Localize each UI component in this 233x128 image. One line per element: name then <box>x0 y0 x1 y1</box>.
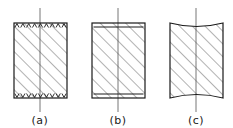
caption-a: (a) <box>32 114 49 127</box>
specimen-b-hatch-fill <box>92 23 145 98</box>
caption-c: (c) <box>188 114 204 127</box>
panel-a: (a) <box>14 8 67 127</box>
caption-b: (b) <box>109 114 126 127</box>
figure-canvas: (a) (b) (c) <box>0 0 233 128</box>
panel-b: (b) <box>92 8 145 127</box>
specimen-c-hatch-fill <box>170 23 223 98</box>
compression-specimen-figure: (a) (b) (c) <box>0 0 233 128</box>
panel-c: (c) <box>170 8 223 127</box>
specimen-a-hatch-fill <box>14 23 67 98</box>
